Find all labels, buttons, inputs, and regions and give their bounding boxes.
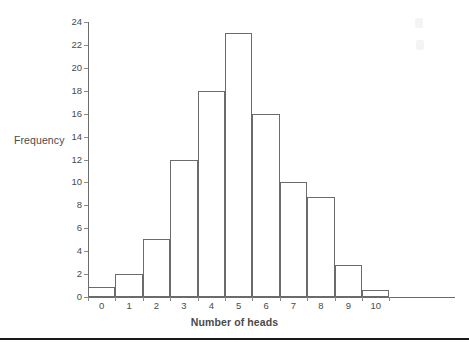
histogram-bar (88, 287, 115, 297)
y-tick-label: 16 (71, 109, 82, 119)
x-tick-label: 7 (291, 301, 296, 311)
x-tick-label: 5 (236, 301, 241, 311)
y-axis-title: Frequency (14, 134, 65, 146)
x-tick-mark (280, 297, 281, 301)
histogram-bar (198, 91, 225, 297)
x-tick-label: 8 (318, 301, 323, 311)
histogram-bar (307, 197, 334, 297)
x-tick-mark (143, 297, 144, 301)
histogram-bar (252, 114, 279, 297)
scan-artifact (416, 40, 424, 50)
x-tick-mark (198, 297, 199, 301)
y-tick-label: 2 (77, 269, 82, 279)
y-tick-label: 0 (77, 292, 82, 302)
histogram-bar (280, 182, 307, 297)
x-tick-label: 1 (126, 301, 131, 311)
y-tick-label: 20 (71, 63, 82, 73)
scan-artifact (415, 18, 423, 28)
y-tick-label: 14 (71, 132, 82, 142)
x-tick-mark (335, 297, 336, 301)
y-tick-label: 24 (71, 17, 82, 27)
y-tick-label: 18 (71, 86, 82, 96)
x-tick-mark (389, 297, 390, 301)
histogram-bar (115, 274, 142, 297)
x-tick-mark (252, 297, 253, 301)
y-tick-label: 10 (71, 178, 82, 188)
x-tick-mark (307, 297, 308, 301)
histogram-bar (170, 160, 197, 298)
histogram-bar (143, 239, 170, 297)
x-tick-mark (170, 297, 171, 301)
x-tick-label: 4 (209, 301, 214, 311)
histogram-figure: Frequency 024681012141618202224 01234567… (0, 0, 469, 351)
x-tick-label: 0 (99, 301, 104, 311)
x-tick-mark (362, 297, 363, 301)
x-tick-mark (115, 297, 116, 301)
y-tick-label: 12 (71, 155, 82, 165)
page-bottom-rule (0, 338, 469, 340)
x-tick-mark (225, 297, 226, 301)
histogram-bar (225, 33, 252, 297)
x-tick-label: 6 (263, 301, 268, 311)
y-tick-label: 6 (77, 224, 82, 234)
histogram-bar (335, 265, 362, 297)
y-axis-tick-labels: 024681012141618202224 (58, 0, 82, 351)
x-tick-label: 3 (181, 301, 186, 311)
x-axis-title: Number of heads (0, 316, 469, 328)
y-tick-label: 22 (71, 40, 82, 50)
x-tick-label: 9 (346, 301, 351, 311)
x-tick-label: 10 (370, 301, 381, 311)
y-tick-label: 8 (77, 201, 82, 211)
y-tick-label: 4 (77, 246, 82, 256)
x-tick-mark (88, 297, 89, 301)
histogram-bar (362, 290, 389, 297)
x-tick-label: 2 (154, 301, 159, 311)
y-axis-line (88, 22, 89, 298)
